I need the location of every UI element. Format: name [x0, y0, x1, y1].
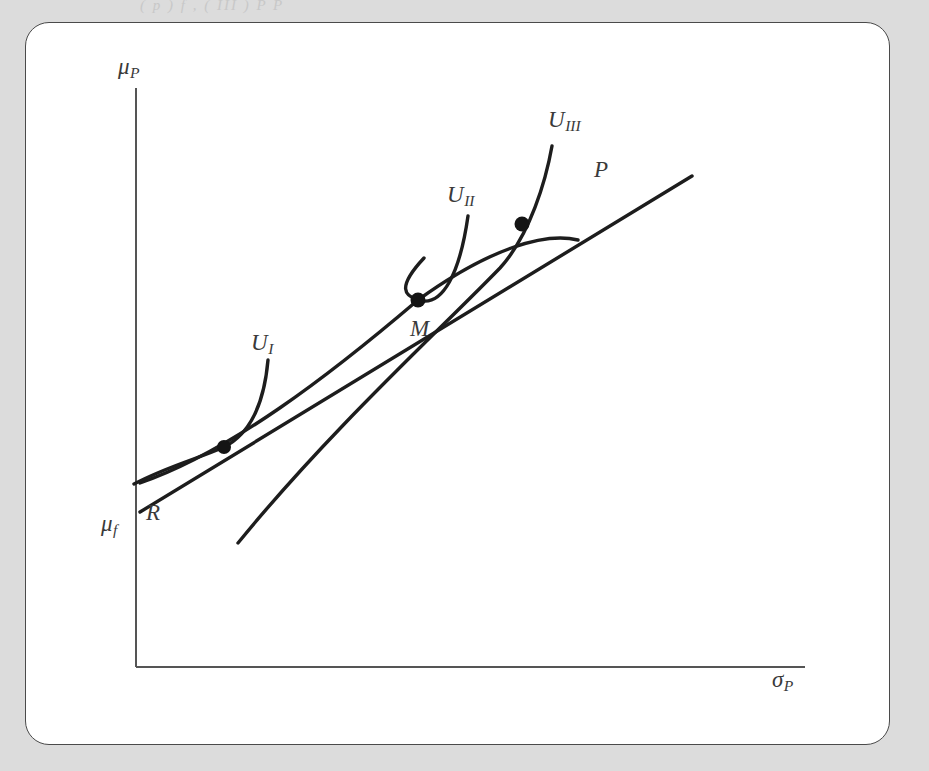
y-axis-label: μP: [118, 55, 140, 81]
label-u1: UI: [251, 331, 273, 357]
label-p-base: P: [594, 157, 608, 182]
label-r: R: [146, 501, 160, 524]
risk-free-rate-label: μf: [101, 512, 117, 538]
y-axis-label-subscript: P: [130, 64, 140, 81]
label-u1-base: U: [251, 330, 268, 355]
label-u3-subscript: III: [565, 117, 581, 134]
x-axis-label-subscript: P: [783, 677, 793, 694]
label-u3-base: U: [548, 107, 565, 132]
label-m-base: M: [410, 316, 429, 341]
y-axis-label-base: μ: [118, 54, 130, 79]
figure-panel: [25, 22, 890, 745]
top-text-fragment: ( p ) f , ( III ) P P: [0, 0, 929, 16]
risk-free-rate-subscript: f: [113, 521, 118, 538]
x-axis-label-base: σ: [772, 667, 783, 692]
label-m: M: [410, 317, 429, 340]
label-u2: UII: [447, 183, 475, 209]
label-u1-subscript: I: [268, 340, 274, 357]
x-axis-label: σP: [772, 668, 793, 694]
risk-free-rate-base: μ: [101, 511, 113, 536]
label-u2-base: U: [447, 182, 464, 207]
label-r-base: R: [146, 500, 160, 525]
label-u2-subscript: II: [464, 192, 475, 209]
label-p: P: [594, 158, 608, 181]
label-u3: UIII: [548, 108, 581, 134]
